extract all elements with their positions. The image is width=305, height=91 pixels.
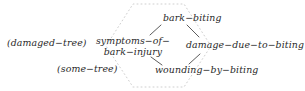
node-some-tree[interactable]: (some−tree): [57, 64, 118, 75]
node-label: bark−biting: [163, 13, 222, 24]
edge-barkbiting-symptoms: [150, 25, 161, 35]
node-damaged-tree[interactable]: (damaged−tree): [7, 38, 87, 49]
edge-damagedue-wounding: [189, 54, 200, 64]
node-label: wounding−by−biting: [155, 65, 258, 76]
semantic-network-diagram: (damaged−tree) (some−tree) symptoms−of− …: [0, 0, 305, 91]
edge-barkbiting-damagedue: [187, 25, 199, 37]
node-symptoms-of-bark-injury[interactable]: symptoms−of− bark−injury: [95, 36, 171, 57]
node-label-line1: symptoms−of−: [95, 36, 171, 47]
node-label-line2: bark−injury: [95, 47, 171, 58]
node-wounding-by-biting[interactable]: wounding−by−biting: [155, 65, 258, 76]
node-label: (damaged−tree): [7, 38, 87, 49]
node-bark-biting[interactable]: bark−biting: [163, 13, 222, 24]
node-damage-due-to-biting[interactable]: damage−due−to−biting: [186, 40, 304, 51]
node-label: (some−tree): [57, 64, 118, 75]
node-label: damage−due−to−biting: [186, 40, 304, 51]
